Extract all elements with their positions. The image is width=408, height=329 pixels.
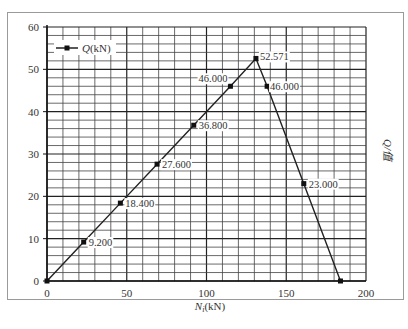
data-point-marker xyxy=(301,181,306,186)
data-point-marker xyxy=(81,240,86,245)
data-label: 46.000 xyxy=(199,73,228,84)
data-label: 46.000 xyxy=(270,81,299,92)
data-point-marker xyxy=(228,84,233,89)
data-point-marker xyxy=(45,279,50,284)
y-tick-label: 40 xyxy=(28,106,40,118)
data-label: 36.800 xyxy=(199,120,228,131)
x-axis-label: Ni(kN) xyxy=(194,300,226,314)
line-chart: 0102030405060050100150200Ni(kN)Q/值9.2001… xyxy=(0,0,408,329)
data-label: 9.200 xyxy=(89,237,113,248)
data-label: 52.571 xyxy=(260,51,289,62)
data-point-marker xyxy=(265,84,270,89)
data-point-marker xyxy=(155,162,160,167)
data-label: 18.400 xyxy=(125,198,154,209)
right-axis-label: Q/值 xyxy=(382,139,394,163)
data-point-marker xyxy=(338,279,343,284)
y-tick-label: 30 xyxy=(28,148,40,160)
x-tick-label: 200 xyxy=(358,287,375,299)
data-point-marker xyxy=(253,56,258,61)
legend-marker xyxy=(65,46,70,51)
y-tick-label: 60 xyxy=(28,21,40,33)
data-point-marker xyxy=(191,123,196,128)
x-tick-label: 0 xyxy=(44,287,50,299)
x-tick-label: 50 xyxy=(121,287,133,299)
y-tick-label: 20 xyxy=(28,190,40,202)
y-tick-label: 50 xyxy=(28,63,40,75)
y-tick-label: 10 xyxy=(28,233,40,245)
x-tick-label: 150 xyxy=(278,287,295,299)
x-tick-label: 100 xyxy=(198,287,215,299)
data-label: 27.600 xyxy=(162,159,191,170)
data-label: 23.000 xyxy=(309,179,338,190)
legend-label: Q(kN) xyxy=(82,42,111,55)
y-tick-label: 0 xyxy=(34,275,40,287)
data-point-marker xyxy=(118,201,123,206)
